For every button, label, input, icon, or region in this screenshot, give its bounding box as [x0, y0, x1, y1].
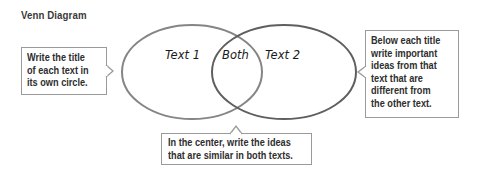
right-circle [212, 25, 356, 119]
callout-right-text: Below each title write important ideas f… [371, 35, 449, 111]
callout-left-pointer-icon [105, 63, 115, 79]
left-circle [122, 25, 262, 119]
callout-left-text: Write the title of each text in its own … [27, 52, 98, 90]
circle-label-text-2: Text 2 [265, 48, 300, 62]
callout-right-pointer-icon [356, 64, 367, 80]
callout-bottom: In the center, write the ideas that are … [161, 133, 312, 165]
callout-left: Write the title of each text in its own … [21, 47, 107, 95]
circle-label-text-1: Text 1 [165, 48, 200, 62]
callout-bottom-text: In the center, write the ideas that are … [168, 137, 297, 162]
callout-right: Below each title write important ideas f… [365, 30, 459, 118]
callout-bottom-pointer-icon [228, 124, 244, 135]
overlap-label-both: Both [222, 48, 249, 62]
